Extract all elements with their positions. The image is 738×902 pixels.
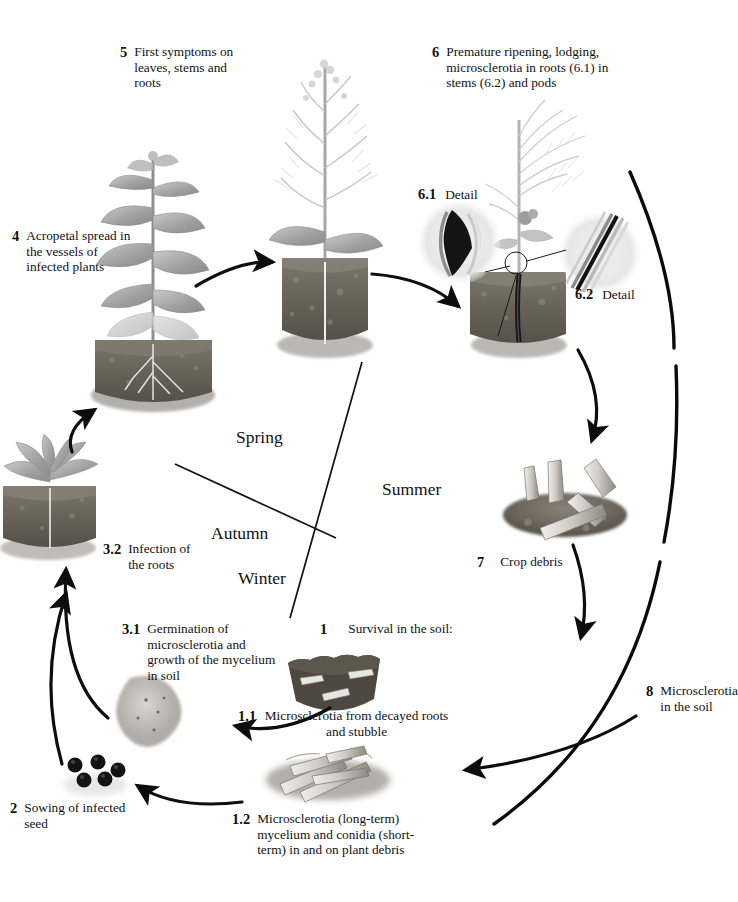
stage-text-1-1: Microsclerotia from decayed roots and st… [263,708,450,739]
arrow-1-2-to-2 [138,786,242,804]
arrow-3-1-to-3-2 [65,570,108,718]
detail-text-6-2: Detail [602,287,635,303]
stage-number-7: 7 [477,554,484,571]
stage-text-6: Premature ripening, lodging, microsclero… [446,44,612,91]
stage-label-1-2: 1.2 Microsclerotia (long-term) mycelium … [232,811,432,858]
stage-label-7: 7 Crop debris [477,554,563,571]
season-label-spring: Spring [236,427,283,448]
arrow-4-to-5 [196,262,272,286]
stage-label-1-1: 1.1 Microsclerotia from decayed roots an… [238,708,450,739]
stage-text-5: First symptoms on leaves, stems and root… [134,44,248,91]
arrow-2-to-3-2 [51,594,66,764]
divider-summer-winter [290,362,362,618]
stage-label-3-2: 3.2 Infection of the roots [103,541,207,572]
detail-label-6-1: 6.1 Detail [418,186,478,203]
arrow-6-to-7 [578,350,597,440]
detail-text-6-1: Detail [445,187,478,203]
arrow-5-to-6 [372,274,458,306]
stage-number-4: 4 [12,228,19,245]
stage-number-6: 6 [432,44,439,61]
stage-number-1-1: 1.1 [238,708,256,725]
stage-number-5: 5 [120,44,127,61]
stage-text-7: Crop debris [500,554,562,570]
stage-text-3-2: Infection of the roots [128,541,207,572]
stage-text-3-1: Germination of microsclerotia and growth… [147,621,286,683]
stage-label-8: 8 Microsclerotia in the soil [646,683,738,714]
stage-number-3-2: 3.2 [103,541,121,558]
detail-number-6-1: 6.1 [418,186,436,203]
stage-text-8: Microsclerotia in the soil [660,683,738,714]
stage-text-4: Acropetal spread in the vessels of infec… [26,228,136,275]
stage-text-1-2: Microsclerotia (long-term) mycelium and … [257,811,432,858]
stage-number-2: 2 [10,800,17,817]
season-label-winter: Winter [238,568,286,589]
stage-text-2: Sowing of infected seed [24,800,128,831]
stage-number-3-1: 3.1 [122,621,140,638]
detail-label-6-2: 6.2 Detail [575,286,635,303]
arrow-7-to-8 [573,545,585,637]
arrow-3-2-to-4 [70,410,94,452]
outer-cycle-arc [494,172,677,824]
stage-number-1: 1 [320,621,327,638]
arrow-8-to-1-2 [466,716,636,770]
stage-label-3-1: 3.1 Germination of microsclerotia and gr… [122,621,286,683]
stage-number-8: 8 [646,683,653,700]
stage-label-6: 6 Premature ripening, lodging, microscle… [432,44,612,91]
stage-number-1-2: 1.2 [232,811,250,828]
stage-label-1: 1 Survival in the soil: [320,621,453,638]
stage-label-2: 2 Sowing of infected seed [10,800,128,831]
stage-text-1: Survival in the soil: [348,621,453,637]
detail-number-6-2: 6.2 [575,286,593,303]
stage-label-5: 5 First symptoms on leaves, stems and ro… [120,44,248,91]
season-label-summer: Summer [382,479,441,500]
stage-label-4: 4 Acropetal spread in the vessels of inf… [12,228,136,275]
season-label-autumn: Autumn [211,523,268,544]
